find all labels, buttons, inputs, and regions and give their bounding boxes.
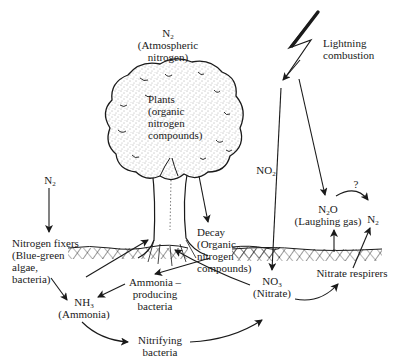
lightning-bolt-icon <box>285 12 318 78</box>
arrow-lightning-to-no2 <box>283 60 300 80</box>
arrow-lightning-to-n2o <box>299 79 325 195</box>
arrow-plants-to-decay <box>199 176 208 222</box>
plants-label: Plants (organic nitrogen compounds) <box>148 93 202 141</box>
lightning-combustion-label: Lightning combustion <box>323 37 374 61</box>
question-mark-label: ? <box>350 178 362 190</box>
ammonia-producing-bacteria-label: Ammonia – producing bacteria <box>120 276 190 312</box>
n2o-label: N2O (Laughing gas) <box>293 203 363 227</box>
right-n2-label: N2 <box>363 213 383 225</box>
arrow-nitrate-to-respirers <box>295 284 338 300</box>
nitrifying-bacteria-label: Nitrifying bacteria <box>128 334 192 358</box>
no2-label: NO2 <box>252 164 280 176</box>
arrow-no2-to-nitrate <box>272 88 281 270</box>
nh3-label: NH3 (Ammonia) <box>54 296 114 320</box>
arrow-nh3-to-nitrifying <box>82 322 128 342</box>
arrow-nitrifying-to-nitrate <box>190 320 262 342</box>
soil-right <box>232 248 382 262</box>
no3-label: NO3 (Nitrate) <box>250 275 294 299</box>
left-n2-label: N2 <box>40 174 60 186</box>
arrow-n2o-to-n2 <box>336 191 368 200</box>
nitrate-respirers-label: Nitrate respirers <box>312 267 392 279</box>
atmospheric-n2-label: N2 (Atmospheric nitrogen) <box>128 27 208 63</box>
decay-label: Decay (Organic nitrogen compounds) <box>197 226 251 274</box>
nitrogen-fixers-label: Nitrogen fixers (Blue-green algae, bacte… <box>12 237 79 285</box>
arrow-respirers-to-n2 <box>353 228 370 268</box>
